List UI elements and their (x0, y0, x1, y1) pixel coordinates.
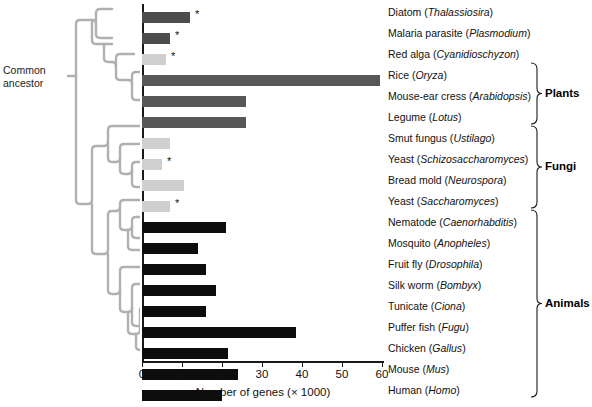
species-label: Red alga (Cyanidioschyzon) (388, 44, 519, 65)
group-label-animals: Animals (545, 297, 590, 309)
bar-row (142, 218, 384, 239)
species-label: Puffer fish (Fugu) (388, 317, 469, 338)
common-ancestor-label: Common ancestor (3, 64, 69, 89)
group-label-fungi: Fungi (545, 160, 576, 172)
species-label: Nematode (Caenorhabditis) (388, 212, 517, 233)
species-label: Mosquito (Anopheles) (388, 233, 490, 254)
x-tick (262, 362, 263, 367)
bar-row: * (142, 50, 384, 71)
bar-cyanidioschyzon (142, 54, 166, 65)
bar-schizosaccharomyces (142, 159, 162, 170)
bar-thalassiosira (142, 12, 190, 23)
x-tick-label: 20 (207, 368, 237, 380)
genome-sequenced-asterisk: * (175, 198, 179, 209)
bar-plot-area: ***** (142, 4, 384, 362)
x-tick-label: 30 (247, 368, 277, 380)
species-label: Fruit fly (Drosophila) (388, 254, 483, 275)
bar-row (142, 302, 384, 323)
species-label: Yeast (Saccharomyces) (388, 191, 499, 212)
species-label: Bread mold (Neurospora) (388, 170, 506, 191)
x-tick (342, 362, 343, 367)
bar-anopheles (142, 243, 198, 254)
bar-row: * (142, 197, 384, 218)
bar-row (142, 281, 384, 302)
bar-lotus (142, 117, 246, 128)
species-label: Human (Homo) (388, 380, 460, 401)
bar-gallus (142, 348, 228, 359)
species-label: Silk worm (Bombyx) (388, 275, 481, 296)
species-label: Rice (Oryza) (388, 65, 447, 86)
gene-count-phylogeny-figure: Common ancestor ***** 0102030405060 Numb… (0, 0, 592, 407)
group-brace-animals (528, 209, 544, 398)
bar-fugu (142, 327, 296, 338)
bar-row (142, 92, 384, 113)
x-tick (182, 362, 183, 367)
genome-sequenced-asterisk: * (195, 9, 199, 20)
x-axis-title: Number of genes (× 1000) (142, 386, 384, 398)
bar-saccharomyces (142, 201, 170, 212)
genome-sequenced-asterisk: * (171, 51, 175, 62)
genome-sequenced-asterisk: * (175, 30, 179, 41)
bar-row (142, 176, 384, 197)
genome-sequenced-asterisk: * (167, 156, 171, 167)
x-tick (222, 362, 223, 367)
group-brace-fungi (528, 125, 544, 209)
x-tick-label: 10 (167, 368, 197, 380)
bar-row (142, 134, 384, 155)
bar-plasmodium (142, 33, 170, 44)
species-label: Diatom (Thalassiosira) (388, 2, 493, 23)
species-label: Mouse-ear cress (Arabidopsis) (388, 86, 531, 107)
species-label: Mouse (Mus) (388, 359, 449, 380)
x-tick (302, 362, 303, 367)
bar-oryza (142, 75, 380, 86)
bar-ustilago (142, 138, 170, 149)
x-tick-label: 40 (287, 368, 317, 380)
species-label: Yeast (Schizosaccharomyces) (388, 149, 528, 170)
species-label: Chicken (Gallus) (388, 338, 466, 359)
x-tick (382, 362, 383, 367)
bar-neurospora (142, 180, 184, 191)
bar-row (142, 323, 384, 344)
bar-row: * (142, 29, 384, 50)
bar-row (142, 113, 384, 134)
common-ancestor-line2: ancestor (3, 77, 69, 90)
bar-row (142, 260, 384, 281)
bar-row (142, 239, 384, 260)
species-label: Legume (Lotus) (388, 107, 462, 128)
bar-ciona (142, 306, 206, 317)
bar-row (142, 71, 384, 92)
bar-caenorhabditis (142, 222, 226, 233)
bar-drosophila (142, 264, 206, 275)
x-tick-label: 50 (327, 368, 357, 380)
phylogenetic-tree (0, 0, 140, 370)
species-label: Tunicate (Ciona) (388, 296, 465, 317)
common-ancestor-line1: Common (3, 64, 69, 77)
group-brace-plants (528, 62, 544, 125)
species-label-column: Diatom (Thalassiosira)Malaria parasite (… (388, 4, 523, 362)
x-tick (142, 362, 143, 367)
species-label: Malaria parasite (Plasmodium) (388, 23, 530, 44)
group-label-plants: Plants (545, 87, 580, 99)
bar-row: * (142, 155, 384, 176)
species-label: Smut fungus (Ustilago) (388, 128, 495, 149)
bar-bombyx (142, 285, 216, 296)
bar-row: * (142, 8, 384, 29)
x-tick-label: 0 (127, 368, 157, 380)
bar-arabidopsis (142, 96, 246, 107)
